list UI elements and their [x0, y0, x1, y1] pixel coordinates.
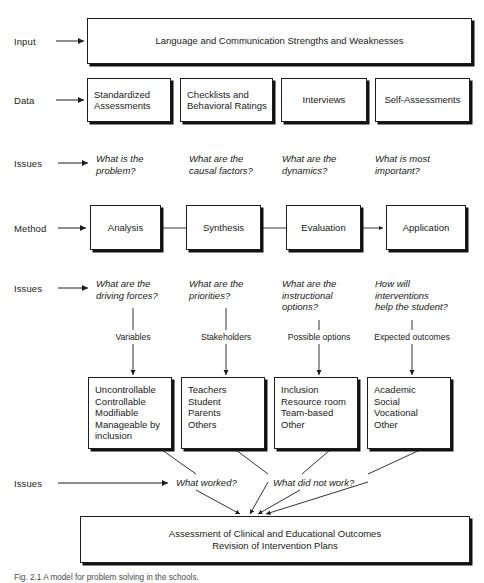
issue-question-dynamics: What are the dynamics? [282, 153, 336, 176]
connector-label-possible-options: Possible options [269, 332, 369, 342]
method-box-label: Analysis [91, 222, 160, 234]
option-box-variables: Uncontrollable Controllable Modifiable M… [88, 377, 172, 449]
connector-label-variables: Variables [83, 332, 183, 342]
issue-question-instructional-options: What are the instructional options? [282, 278, 336, 313]
figure-caption: Fig. 2.1 A model for problem solving in … [14, 573, 314, 582]
method-box-synthesis: Synthesis [186, 205, 261, 250]
figure-diagram: Input Data Issues Method Issues Issues L… [0, 0, 484, 583]
issue-question-most-important: What is most important? [375, 153, 430, 176]
data-box-label: Checklists and Behavioral Ratings [187, 89, 272, 112]
method-box-application: Application [386, 205, 466, 250]
issue-question-problem: What is the problem? [96, 153, 144, 176]
data-box-checklists-behavioral-ratings: Checklists and Behavioral Ratings [180, 78, 273, 122]
connector-label-stakeholders: Stakeholders [176, 332, 276, 342]
data-box-label: Interviews [282, 94, 366, 106]
issue-question-driving-forces: What are the driving forces? [96, 278, 158, 301]
diag-optionbox-3 [302, 450, 330, 474]
data-box-interviews: Interviews [281, 78, 367, 122]
issue-question-what-worked: What worked? [176, 477, 237, 489]
row-label-data: Data [14, 95, 34, 106]
method-box-label: Evaluation [287, 222, 360, 234]
option-box-expected-outcomes: Academic Social Vocational Other [367, 377, 451, 449]
option-box-stakeholders: Teachers Student Parents Others [181, 377, 265, 449]
option-box-label: Uncontrollable Controllable Modifiable M… [95, 384, 171, 442]
option-box-label: Teachers Student Parents Others [188, 384, 264, 430]
method-box-analysis: Analysis [90, 205, 161, 250]
row-label-method: Method [14, 223, 46, 234]
data-box-label: Self-Assessments [376, 94, 469, 106]
method-box-evaluation: Evaluation [286, 205, 361, 250]
issue-question-priorities: What are the priorities? [189, 278, 243, 301]
row-label-issues-1: Issues [14, 158, 42, 169]
row-label-issues-3: Issues [14, 478, 42, 489]
converge-from-box3 [258, 490, 300, 514]
row-label-issues-2: Issues [14, 283, 42, 294]
diag-optionbox-2 [236, 450, 268, 474]
outcome-box: Assessment of Clinical and Educational O… [80, 516, 470, 563]
data-box-standardized-assessments: Standardized Assessments [87, 78, 171, 122]
issue-question-interventions-help: How will interventions help the student? [375, 278, 448, 313]
connector-label-expected-outcomes: Expected outcomes [358, 332, 466, 342]
input-box: Language and Communication Strengths and… [87, 18, 472, 64]
option-box-label: Inclusion Resource room Team-based Other [281, 384, 357, 430]
issue-question-causal-factors: What are the causal factors? [189, 153, 253, 176]
option-box-label: Academic Social Vocational Other [374, 384, 450, 430]
converge-from-issues3-left [196, 490, 240, 514]
data-box-label: Standardized Assessments [94, 89, 170, 112]
data-box-self-assessments: Self-Assessments [375, 78, 470, 122]
row-label-input: Input [14, 36, 36, 47]
method-box-label: Synthesis [187, 222, 260, 234]
converge-from-box2 [250, 482, 268, 514]
diag-optionbox-4 [368, 450, 420, 474]
outcome-box-label: Assessment of Clinical and Educational O… [81, 528, 469, 551]
option-box-instructional-options: Inclusion Resource room Team-based Other [274, 377, 358, 449]
method-box-label: Application [387, 222, 465, 234]
issue-question-what-did-not-work: What did not work? [273, 477, 354, 489]
diag-optionbox-1 [162, 450, 196, 474]
input-box-label: Language and Communication Strengths and… [88, 35, 471, 47]
